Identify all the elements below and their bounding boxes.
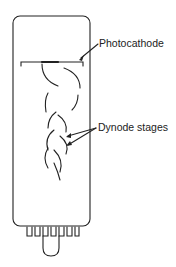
dynode-leader-2 xyxy=(68,128,96,145)
base-key xyxy=(43,236,59,256)
dynode-stages-label: Dynode stages xyxy=(98,122,168,133)
photocathode-arrowhead xyxy=(79,55,84,61)
photocathode-label: Photocathode xyxy=(99,38,164,49)
dynode-stages xyxy=(42,64,80,180)
base-pins xyxy=(27,227,79,236)
dynode-arrowhead-1 xyxy=(66,133,71,138)
tube-envelope xyxy=(13,16,90,226)
dynode-arrowhead-2 xyxy=(66,141,72,146)
dynode-leader-1 xyxy=(68,128,96,136)
